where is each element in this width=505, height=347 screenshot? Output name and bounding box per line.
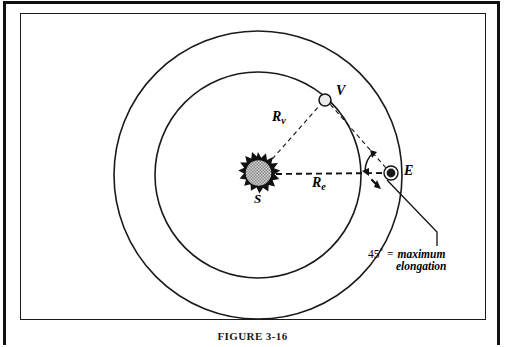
degree-symbol-icon: ° [380,246,384,256]
angle-arrow-upper [370,150,377,158]
venus-icon [319,94,331,106]
label-venus: V [336,84,345,99]
sun-icon [238,152,280,193]
figure-caption: FIGURE 3-16 [0,330,505,342]
annotation-text-maximum: maximum [397,248,445,260]
label-radius-venus-subscript: v [281,115,285,126]
annotation-equals-sign: = [386,248,395,260]
label-radius-earth-base: R [312,175,321,190]
figure-page: V E S Rv Re 45° = maximum elongation FIG… [0,0,505,347]
annotation-line-1: 45° = maximum [368,246,503,260]
label-radius-venus-base: R [272,109,281,124]
segment-line-of-sight [330,104,386,168]
annotation-leader-line [387,180,437,246]
label-radius-earth-subscript: e [321,181,325,192]
annotation-text-elongation: elongation [396,260,503,272]
orbit-diagram [0,0,505,347]
label-radius-venus: Rv [272,110,286,126]
label-radius-earth: Re [312,176,326,192]
annotation-angle-value: 45 [368,248,380,260]
label-earth: E [404,164,413,179]
annotation-maximum-elongation: 45° = maximum elongation [368,246,503,272]
earth-icon [384,166,398,180]
label-sun: S [254,192,261,206]
